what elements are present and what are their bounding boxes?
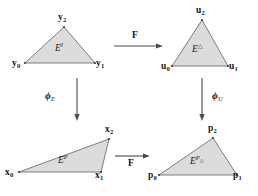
- vertex-label-x0: x0: [5, 168, 13, 178]
- vertex-label-y0: y0: [12, 59, 20, 69]
- arrow-head-top-horizontal: [156, 43, 163, 48]
- vertex-sub-u2: 2: [201, 9, 204, 16]
- map-phi-U-sub: U: [218, 95, 223, 102]
- vertex-sub-p0: 0: [153, 174, 156, 181]
- map-phi-E-base: ϕ: [45, 90, 51, 101]
- map-label-F-top: F: [132, 31, 138, 41]
- vertex-label-y2: y2: [58, 13, 66, 23]
- vertex-label-y1: y1: [96, 59, 104, 69]
- vertex-dot-x2: [108, 138, 110, 140]
- map-label-phi-E: ϕE: [45, 91, 55, 101]
- arrow-head-bottom-horizontal: [143, 153, 150, 158]
- vertex-dot-u0: [171, 65, 173, 67]
- element-label-bottom-left: EP: [58, 156, 68, 166]
- element-superscript-bottom-left: P: [64, 153, 68, 160]
- vertex-dot-x0: [18, 171, 20, 173]
- vertex-sub-x0: 0: [10, 171, 13, 178]
- map-phi-U-base: ϕ: [212, 90, 218, 101]
- vertex-sub-y2: 2: [63, 16, 66, 23]
- vertex-label-p0: p0: [148, 171, 157, 181]
- map-phi-E-sub: E: [51, 95, 55, 102]
- vertex-label-p1: p1: [233, 171, 242, 181]
- vertex-label-x2: x2: [105, 125, 113, 135]
- vertex-label-u0: u0: [161, 62, 170, 72]
- map-label-phi-U: ϕU: [212, 91, 222, 101]
- element-superscript-sub-bottom-right: △: [200, 158, 204, 163]
- vertex-sub-y0: 0: [17, 62, 20, 69]
- arrow-head-left-vertical: [74, 114, 79, 121]
- commutative-diagram: EI y0 y1 y2 E△ u0 u1 u2 EP x0 x1 x2 EP△ …: [0, 0, 258, 196]
- vertex-dot-y0: [24, 62, 26, 64]
- element-base-top-left: E: [55, 43, 61, 53]
- map-label-F-bottom: F: [128, 159, 134, 169]
- vertex-sub-u1: 1: [234, 65, 237, 72]
- element-label-top-right: E△: [192, 45, 203, 55]
- element-superscript-top-right: △: [198, 42, 203, 49]
- vertex-sub-y1: 1: [101, 62, 104, 69]
- vertex-sub-x2: 2: [110, 128, 113, 135]
- vertex-dot-y2: [63, 26, 65, 28]
- vertex-dot-p0: [158, 174, 160, 176]
- arrow-head-right-vertical: [199, 114, 204, 121]
- vertex-label-x1: x1: [95, 171, 103, 181]
- element-label-top-left: EI: [55, 44, 63, 54]
- vertex-sub-u0: 0: [166, 65, 169, 72]
- element-superscript-bottom-right: P△: [196, 154, 204, 161]
- vertex-dot-u2: [201, 19, 203, 21]
- vertex-sub-p2: 2: [213, 127, 216, 134]
- element-superscript-top-left: I: [61, 41, 63, 48]
- element-label-bottom-right: EP△: [190, 157, 204, 167]
- vertex-label-p2: p2: [208, 124, 217, 134]
- vertex-label-u2: u2: [196, 6, 205, 16]
- element-base-bottom-left: E: [58, 155, 64, 165]
- vertex-dot-p2: [212, 137, 214, 139]
- vertex-sub-x1: 1: [100, 174, 103, 181]
- vertex-sub-p1: 1: [238, 174, 241, 181]
- element-base-top-right: E: [192, 44, 198, 54]
- vertex-label-u1: u1: [229, 62, 238, 72]
